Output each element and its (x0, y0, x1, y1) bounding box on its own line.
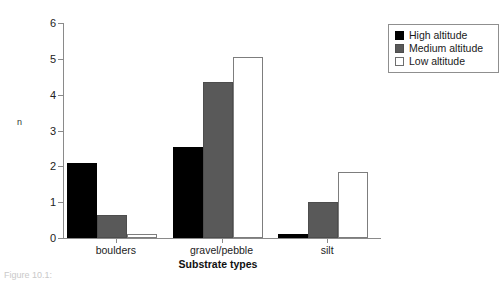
legend-swatch-icon (395, 31, 404, 40)
chart-legend: High altitude Medium altitude Low altitu… (388, 24, 499, 73)
y-axis-title: n (17, 118, 22, 127)
y-tick-mark (58, 59, 63, 60)
bar-group (278, 23, 368, 238)
legend-label: High altitude (409, 30, 467, 41)
x-tick-mark (327, 238, 328, 243)
plot-area: 0123456 (63, 23, 380, 238)
legend-label: Low altitude (409, 56, 465, 67)
y-tick-label: 6 (50, 18, 56, 29)
y-tick-mark (58, 166, 63, 167)
legend-item-medium-altitude: Medium altitude (395, 42, 493, 54)
figure-caption: Figure 10.1: (4, 271, 52, 280)
x-axis-title: Substrate types (179, 259, 258, 270)
legend-swatch-icon (395, 57, 404, 66)
bar (67, 163, 97, 238)
legend-item-low-altitude: Low altitude (395, 55, 493, 67)
bar (233, 57, 263, 238)
y-tick-mark (58, 131, 63, 132)
legend-swatch-icon (395, 44, 404, 53)
y-tick-mark (58, 95, 63, 96)
bar-group (173, 23, 263, 238)
y-tick-label: 0 (50, 233, 56, 244)
x-tick-mark (116, 238, 117, 243)
x-category-label: silt (321, 245, 334, 256)
bar (127, 234, 157, 238)
y-tick-label: 4 (50, 89, 56, 100)
bar (338, 172, 368, 238)
y-tick-mark (58, 238, 63, 239)
bar-group (67, 23, 157, 238)
bar (97, 215, 127, 238)
y-tick-label: 3 (50, 125, 56, 136)
figure-container: n 0123456 bouldersgravel/pebblesilt Subs… (0, 0, 503, 281)
bar (203, 82, 233, 238)
x-category-label: boulders (96, 245, 136, 256)
y-tick-label: 5 (50, 53, 56, 64)
legend-label: Medium altitude (409, 43, 483, 54)
x-category-label: gravel/pebble (190, 245, 253, 256)
y-tick-mark (58, 202, 63, 203)
y-tick-mark (58, 23, 63, 24)
legend-item-high-altitude: High altitude (395, 29, 493, 41)
x-tick-mark (222, 238, 223, 243)
bar (278, 234, 308, 238)
bar (173, 147, 203, 238)
y-tick-label: 1 (50, 197, 56, 208)
y-tick-label: 2 (50, 161, 56, 172)
bar (308, 202, 338, 238)
